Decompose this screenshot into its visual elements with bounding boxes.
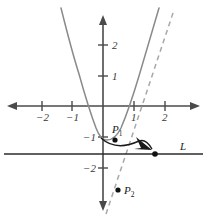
point-label-P2: P2: [124, 185, 134, 199]
y-axis-top-arrowhead: [99, 15, 107, 25]
point-label-P1: P1: [112, 124, 122, 138]
curved-arrow: [101, 137, 152, 150]
point-P2-dot: [115, 187, 120, 192]
x-tick-label-1: 1: [131, 112, 137, 123]
point-label-P2-base: P: [124, 184, 131, 196]
x-tick-label-minus1: −1: [66, 112, 79, 123]
point-P1-dot: [112, 137, 117, 142]
x-tick-label-minus2: −2: [36, 112, 49, 123]
y-tick-label-2: 2: [112, 40, 118, 51]
point-label-P2-sub: 2: [131, 190, 135, 199]
x-axis-left-arrowhead: [7, 102, 17, 110]
curved-arrow-path: [101, 138, 139, 146]
y-tick-label-minus2: −2: [83, 163, 96, 174]
point-label-P1-sub: 1: [119, 129, 123, 138]
y-tick-label-1: 1: [112, 71, 118, 82]
point-on-L-dot: [152, 151, 158, 157]
x-tick-label-2: 2: [162, 112, 168, 123]
graph-figure: −2 −1 1 2 2 1 −1 −2 P1 P2 L: [0, 0, 207, 218]
graph-canvas: [0, 0, 207, 218]
y-tick-label-minus1: −1: [83, 132, 96, 143]
x-axis-right-arrowhead: [190, 102, 200, 110]
curved-arrow-head: [134, 137, 152, 150]
line-L-label: L: [180, 141, 186, 152]
y-axis-bottom-arrowhead: [99, 201, 107, 211]
point-label-P1-base: P: [112, 123, 119, 135]
